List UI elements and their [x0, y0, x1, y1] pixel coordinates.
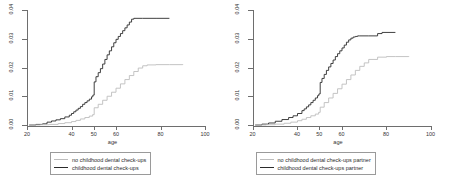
legend-swatch-black-icon [54, 167, 68, 168]
chart-panel-right: 0.000.010.020.030.04 2040506080100 age n… [226, 0, 451, 187]
x-tick-label: 100 [419, 131, 443, 137]
legend-label-checkups: childhood dental check-ups [72, 165, 139, 171]
y-tick-label: 0.00 [234, 109, 240, 139]
x-tick-mark [205, 126, 206, 130]
legend-item-no-checkups-partner[interactable]: no childhood dental check-ups partner [260, 156, 371, 164]
x-tick-mark [319, 126, 320, 130]
x-tick-mark [94, 126, 95, 130]
legend-label-no-checkups-partner: no childhood dental check-ups partner [278, 157, 371, 163]
x-tick-label: 40 [60, 131, 84, 137]
x-tick-label: 100 [193, 131, 217, 137]
x-tick-mark [431, 126, 432, 130]
y-tick-label: 0.02 [8, 52, 14, 82]
x-axis-title-right: age [226, 139, 451, 145]
y-tick-label: 0.01 [234, 80, 240, 110]
legend-swatch-gray-icon [260, 159, 274, 160]
legend-right: no childhood dental check-ups partner ch… [256, 152, 376, 175]
x-tick-mark [297, 126, 298, 130]
curve-childhood-dental-check-ups [29, 18, 169, 125]
y-tick-label: 0.01 [8, 80, 14, 110]
y-tick-label: 0.04 [234, 0, 240, 24]
x-tick-label: 60 [330, 131, 354, 137]
x-tick-mark [253, 126, 254, 130]
x-tick-mark [342, 126, 343, 130]
y-tick-label: 0.03 [8, 23, 14, 53]
x-tick-label: 60 [104, 131, 128, 137]
y-tick-label: 0.04 [8, 0, 14, 24]
curve-no-childhood-dental-check-ups [29, 64, 183, 125]
x-tick-label: 50 [82, 131, 106, 137]
x-tick-mark [27, 126, 28, 130]
legend-left: no childhood dental check-ups childhood … [50, 152, 151, 175]
x-tick-label: 20 [15, 131, 39, 137]
legend-item-checkups-partner[interactable]: childhood dental check-ups partner [260, 164, 371, 172]
y-tick-label: 0.02 [234, 52, 240, 82]
x-tick-mark [72, 126, 73, 130]
series-curves-right [253, 10, 431, 125]
y-tick-label: 0.00 [8, 109, 14, 139]
legend-label-checkups-partner: childhood dental check-ups partner [278, 165, 364, 171]
curve-no-childhood-dental-check-ups-partner [255, 56, 409, 125]
x-tick-label: 80 [149, 131, 173, 137]
legend-swatch-gray-icon [54, 159, 68, 160]
x-tick-label: 40 [285, 131, 309, 137]
plot-area-right [253, 10, 431, 125]
curve-childhood-dental-check-ups-partner [255, 32, 395, 125]
series-curves-left [27, 10, 205, 125]
x-tick-label: 50 [307, 131, 331, 137]
x-tick-label: 20 [241, 131, 265, 137]
dual-cumulative-incidence-figure: 0.000.010.020.030.04 2040506080100 age n… [0, 0, 451, 187]
plot-area-left [27, 10, 205, 125]
legend-item-checkups[interactable]: childhood dental check-ups [54, 164, 146, 172]
x-tick-mark [386, 126, 387, 130]
x-tick-label: 80 [374, 131, 398, 137]
y-tick-label: 0.03 [234, 23, 240, 53]
x-tick-mark [116, 126, 117, 130]
legend-item-no-checkups[interactable]: no childhood dental check-ups [54, 156, 146, 164]
legend-label-no-checkups: no childhood dental check-ups [72, 157, 146, 163]
x-axis-title-left: age [0, 139, 225, 145]
chart-panel-left: 0.000.010.020.030.04 2040506080100 age n… [0, 0, 226, 187]
legend-swatch-black-icon [260, 167, 274, 168]
x-tick-mark [161, 126, 162, 130]
